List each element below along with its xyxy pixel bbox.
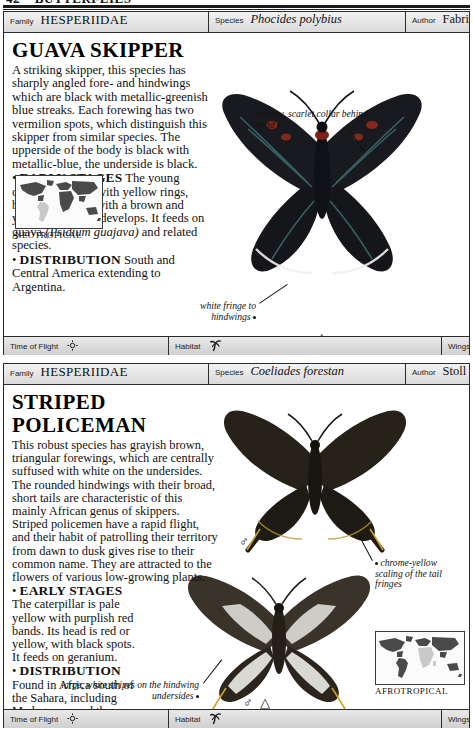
time-of-flight-label: Time of Flight <box>10 715 58 724</box>
entry-data-bar: Time of Flight Habitat Wingspan 1¾–2 in … <box>4 709 469 728</box>
author-cell: Author Fabricius <box>406 12 469 32</box>
description-paragraph: This robust species has grayish brown, t… <box>12 439 218 584</box>
early-stages-paragraph: • EARLY STAGES The caterpillar is pale y… <box>12 584 140 664</box>
entry-body: ♂ <box>4 385 469 728</box>
family-label: Family <box>10 17 34 26</box>
distribution-map-afrotropical <box>375 631 465 685</box>
common-name-heading: GUAVA SKIPPER <box>12 39 210 62</box>
author-label: Author <box>412 16 436 25</box>
time-of-flight-label: Time of Flight <box>10 342 58 351</box>
author-label: Author <box>412 368 436 377</box>
callout-white-fringe-text: white fringe to hindwings <box>200 300 256 322</box>
entry-text-column: GUAVA SKIPPER A striking skipper, this s… <box>12 39 210 294</box>
wingspan-label: Wingspan <box>448 715 469 724</box>
callout-scarlet-collar-text: narrow, scarlet collar behind head <box>256 108 368 130</box>
description-paragraph: A striking skipper, this species has sha… <box>12 64 210 171</box>
sex-symbol-male-upperside: ♂ <box>239 535 249 548</box>
distribution-map-neotropical <box>15 175 103 229</box>
family-cell: Family HESPERIIDAE <box>4 12 209 32</box>
habitat-cell: Habitat <box>169 710 442 728</box>
habitat-label: Habitat <box>175 342 200 351</box>
family-value: HESPERIIDAE <box>41 12 128 28</box>
distribution-heading: DISTRIBUTION <box>20 252 121 267</box>
sun-icon <box>67 340 78 353</box>
family-value: HESPERIIDAE <box>41 364 128 380</box>
bullet-glyph: • <box>12 584 16 598</box>
species-id-bar: Family HESPERIIDAE Species Phocides poly… <box>4 12 469 33</box>
map-caption-neotropical: NEOTROPICAL <box>15 230 82 240</box>
wingspan-cell: Wingspan 2–2⅜ in (5–6 cm) <box>442 337 469 355</box>
common-name-heading: STRIPED POLICEMAN <box>12 391 218 437</box>
underside-triangle-symbol: △ <box>260 696 270 709</box>
species-label: Species <box>215 368 243 377</box>
callout-scarlet-collar: narrow, scarlet collar behind head <box>256 109 376 130</box>
time-of-flight-cell: Time of Flight <box>4 337 169 355</box>
description-text: This robust species has grayish brown, t… <box>12 438 218 584</box>
species-value: Coeliades forestan <box>250 364 344 379</box>
family-cell: Family HESPERIIDAE <box>4 364 209 384</box>
field-guide-page: 42·BUTTERFLIES Family HESPERIIDAE Specie… <box>0 0 473 730</box>
time-of-flight-cell: Time of Flight <box>4 710 169 728</box>
callout-white-fringe: white fringe to hindwings <box>180 301 256 322</box>
header-rule-thick <box>3 5 470 8</box>
palm-tree-icon <box>209 712 222 727</box>
author-value: Stoll <box>443 364 467 379</box>
habitat-label: Habitat <box>175 715 200 724</box>
butterfly-specimen-guava-skipper <box>200 51 440 321</box>
callout-dot <box>253 316 256 319</box>
species-id-bar: Family HESPERIIDAE Species Coeliades for… <box>4 364 469 385</box>
species-entry-striped-policeman: Family HESPERIIDAE Species Coeliades for… <box>3 363 470 728</box>
wingspan-label: Wingspan <box>448 342 469 351</box>
wingspan-cell: Wingspan 1¾–2 in (4.5–5 cm) <box>442 710 469 728</box>
entry-data-bar: Time of Flight Habitat Wingspan 2–2⅜ in … <box>4 336 469 355</box>
map-caption-afrotropical: AFROTROPICAL <box>375 686 448 696</box>
author-cell: Author Stoll <box>406 364 469 384</box>
description-text: A striking skipper, this species has sha… <box>12 63 208 171</box>
species-cell: Species Phocides polybius <box>209 12 406 32</box>
entry-text-column: STRIPED POLICEMAN This robust species ha… <box>12 391 218 728</box>
author-value: Fabricius <box>443 12 469 27</box>
habitat-cell: Habitat <box>169 337 442 355</box>
callout-dot <box>375 562 378 565</box>
species-value: Phocides polybius <box>250 12 341 27</box>
bullet-glyph: • <box>12 253 16 267</box>
callout-chrome-yellow-scaling: chrome-yellow scaling of the tail fringe… <box>375 558 461 590</box>
distribution-paragraph: • DISTRIBUTION South and Central America… <box>12 253 210 294</box>
world-map-svg <box>16 176 102 228</box>
species-label: Species <box>215 16 243 25</box>
sun-icon <box>67 713 78 726</box>
species-entry-guava-skipper: Family HESPERIIDAE Species Phocides poly… <box>3 11 470 355</box>
bullet-glyph: • <box>12 664 16 678</box>
species-cell: Species Coeliades forestan <box>209 364 406 384</box>
butterfly-specimen-striped-policeman-upperside <box>210 393 420 553</box>
early-stages-text: The caterpillar is pale yellow with purp… <box>12 597 135 664</box>
entry-body: narrow, scarlet collar behind head white… <box>4 33 469 355</box>
sex-symbol-male-underside: ♂ <box>243 696 253 709</box>
distribution-heading: DISTRIBUTION <box>20 663 121 678</box>
callout-chrome-yellow-text: chrome-yellow scaling of the tail fringe… <box>375 557 442 589</box>
family-label: Family <box>10 369 34 378</box>
callout-dot <box>277 124 280 127</box>
palm-tree-icon <box>209 339 222 354</box>
world-map-svg <box>376 632 464 684</box>
early-stages-heading: EARLY STAGES <box>20 583 123 598</box>
header-rule-thin <box>3 9 470 10</box>
